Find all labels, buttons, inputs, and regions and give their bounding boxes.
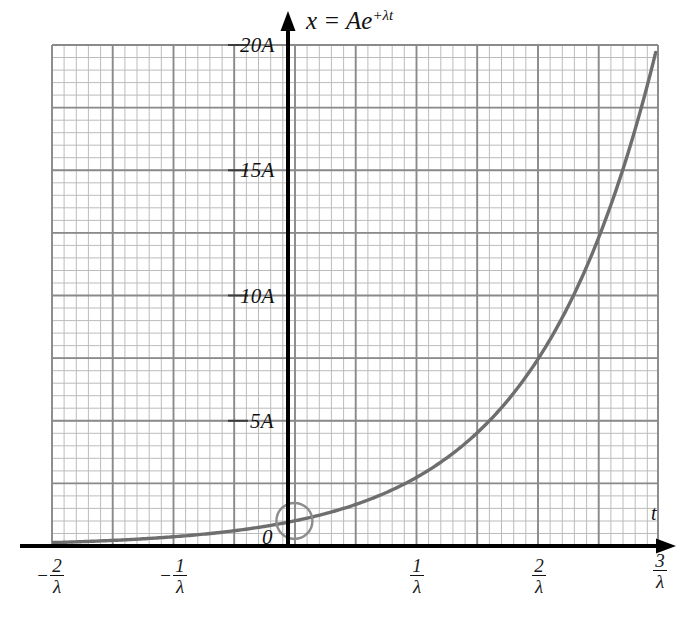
x-tick-denominator-3: λ (410, 576, 424, 597)
x-tick-denominator-2: λ (173, 576, 187, 597)
y-tick-label-15a: 15A (240, 158, 275, 183)
y-tick-label-20a: 20A (240, 33, 275, 58)
x-tick-numerator-4: 2 (532, 556, 546, 576)
x-tick-label-3-over-lambda: 3 λ (646, 551, 674, 593)
x-tick-numerator-5: 3 (653, 551, 667, 571)
x-tick-label-2-over-lambda: 2 λ (525, 556, 553, 598)
y-tick-label-10a: 10A (240, 284, 275, 309)
x-axis-label-t: t (651, 502, 657, 525)
y-tick-label-0: 0 (262, 525, 273, 550)
x-tick-numerator-1: 2 (50, 556, 64, 576)
equation-base: x = Ae (306, 7, 372, 34)
x-tick-denominator-5: λ (653, 571, 667, 592)
x-tick-sign-1: − (37, 565, 48, 587)
y-tick-label-5a: 5A (250, 409, 274, 434)
exponential-curve (52, 52, 656, 542)
graph-figure: x = Ae+λt 20A 15A 10A 5A 0 t − 2 λ − 1 λ… (0, 0, 690, 627)
axes (20, 11, 676, 554)
x-tick-denominator-1: λ (50, 576, 64, 597)
x-tick-sign-2: − (160, 565, 171, 587)
y-axis-arrowhead (281, 11, 296, 31)
x-tick-numerator-3: 1 (410, 556, 424, 576)
x-tick-denominator-4: λ (532, 576, 546, 597)
curve-equation-label: x = Ae+λt (306, 7, 393, 35)
x-tick-numerator-2: 1 (173, 556, 187, 576)
graph-canvas (0, 0, 690, 627)
x-tick-label-minus-2-over-lambda: − 2 λ (40, 556, 74, 598)
x-tick-label-minus-1-over-lambda: − 1 λ (163, 556, 197, 598)
x-tick-label-1-over-lambda: 1 λ (403, 556, 431, 598)
equation-exponent: +λt (372, 7, 393, 23)
